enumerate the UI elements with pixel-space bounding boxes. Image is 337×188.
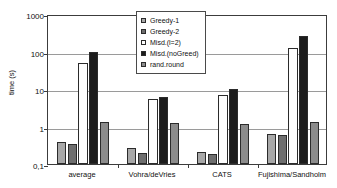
bar-group-bars	[48, 16, 118, 164]
bar-misd-nogreed[interactable]	[159, 97, 169, 164]
legend-item[interactable]: Greedy-2	[141, 26, 201, 37]
legend-swatch-icon	[141, 18, 146, 23]
bar-greedy-1[interactable]	[267, 134, 277, 164]
legend-item-label: Greedy-2	[150, 28, 179, 35]
x-axis-category-label: Fujishima/Sandholm	[258, 170, 326, 179]
bar-rand-round[interactable]	[170, 123, 180, 164]
x-axis-category-label: Vohra/deVries	[129, 170, 176, 179]
bar-rand-round[interactable]	[100, 122, 110, 164]
y-axis-tick-mark	[44, 166, 48, 167]
bar-rand-round[interactable]	[310, 122, 320, 164]
chart-legend: Greedy-1Greedy-2Misd.(l=2)Misd.(noGreed)…	[136, 11, 206, 74]
bar-group	[258, 16, 328, 164]
legend-item-label: rand.round	[150, 61, 184, 68]
legend-item[interactable]: rand.round	[141, 59, 201, 70]
legend-swatch-icon	[141, 40, 146, 45]
bar-greedy-2[interactable]	[68, 144, 78, 164]
legend-swatch-icon	[141, 29, 146, 34]
y-axis-tick-label: 0,1	[33, 162, 44, 171]
bar-misd-l-2[interactable]	[218, 95, 228, 164]
bar-greedy-2[interactable]	[208, 154, 218, 164]
legend-swatch-icon	[141, 62, 146, 67]
chart-figure: time (s) 10001001010,1 Greedy-1Greedy-2M…	[0, 0, 337, 188]
legend-item[interactable]: Greedy-1	[141, 15, 201, 26]
bar-group-bars	[258, 16, 328, 164]
y-axis-tick-label: 10	[35, 87, 44, 96]
x-axis-category-label: average	[68, 170, 95, 179]
bar-greedy-1[interactable]	[57, 142, 67, 164]
bar-greedy-1[interactable]	[127, 148, 137, 164]
bar-misd-nogreed[interactable]	[229, 89, 239, 164]
x-axis-tick-mark	[188, 164, 189, 168]
bar-rand-round[interactable]	[240, 124, 250, 164]
bar-greedy-1[interactable]	[197, 152, 207, 164]
bar-misd-l-2[interactable]	[148, 99, 158, 164]
y-axis-tick-label: 100	[31, 49, 44, 58]
bar-misd-nogreed[interactable]	[89, 52, 99, 165]
bar-group	[48, 16, 118, 164]
bar-greedy-2[interactable]	[278, 135, 288, 164]
bar-misd-l-2[interactable]	[288, 48, 298, 164]
bar-greedy-2[interactable]	[138, 153, 148, 164]
x-axis-category-label: CATS	[212, 170, 231, 179]
y-axis-tick-label: 1	[40, 124, 44, 133]
legend-swatch-icon	[141, 51, 146, 56]
y-axis-tick-label: 1000	[26, 12, 44, 21]
bar-misd-l-2[interactable]	[78, 63, 88, 164]
legend-item-label: Misd.(noGreed)	[150, 50, 199, 57]
legend-item-label: Greedy-1	[150, 17, 179, 24]
y-axis-label: time (s)	[7, 53, 16, 113]
legend-item[interactable]: Misd.(noGreed)	[141, 48, 201, 59]
x-axis-tick-mark	[258, 164, 259, 168]
x-axis-tick-mark	[118, 164, 119, 168]
legend-item-label: Misd.(l=2)	[150, 39, 181, 46]
bar-misd-nogreed[interactable]	[299, 36, 309, 164]
legend-item[interactable]: Misd.(l=2)	[141, 37, 201, 48]
